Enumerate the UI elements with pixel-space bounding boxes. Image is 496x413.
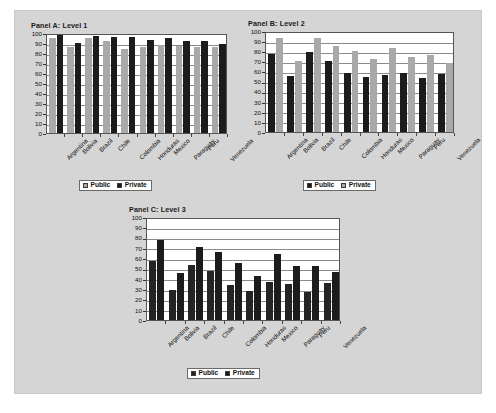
bar bbox=[268, 54, 275, 132]
y-axis-tick-label: 0 bbox=[139, 318, 142, 324]
bar bbox=[400, 73, 407, 132]
bar bbox=[332, 272, 339, 320]
x-axis-tick bbox=[341, 133, 342, 136]
x-axis-category-label: Brazil bbox=[98, 137, 114, 153]
bar bbox=[427, 55, 434, 132]
y-axis-tick bbox=[143, 259, 146, 260]
legend-swatch-icon bbox=[83, 183, 88, 188]
y-axis-tick-label: 50 bbox=[35, 81, 42, 87]
y-axis-tick bbox=[43, 84, 46, 85]
panel-b: Panel B: Level 2 0102030405060708090100A… bbox=[248, 19, 458, 192]
y-axis-tick-label: 60 bbox=[135, 256, 142, 262]
x-axis-tick bbox=[243, 321, 244, 324]
y-axis-tick bbox=[262, 72, 265, 73]
bar bbox=[57, 34, 64, 133]
x-axis-tick bbox=[204, 321, 205, 324]
y-axis-tick bbox=[43, 104, 46, 105]
panel-c: Panel C: Level 3 0102030405060708090100A… bbox=[129, 205, 344, 381]
legend-swatch-icon bbox=[307, 183, 312, 188]
x-axis-tick bbox=[284, 133, 285, 136]
y-axis-tick-label: 0 bbox=[258, 130, 261, 136]
y-axis-tick-label: 100 bbox=[32, 31, 42, 37]
legend-label: Public bbox=[91, 182, 111, 189]
x-axis-tick bbox=[137, 134, 138, 137]
y-axis-tick-label: 80 bbox=[35, 51, 42, 57]
chart-legend: PublicPrivate bbox=[79, 180, 152, 191]
y-axis-tick bbox=[143, 321, 146, 322]
legend-entry: Public bbox=[83, 182, 110, 189]
y-axis-tick-label: 30 bbox=[135, 287, 142, 293]
y-axis-tick-label: 50 bbox=[254, 79, 261, 85]
bar bbox=[194, 47, 201, 133]
x-axis-tick bbox=[185, 321, 186, 324]
bar bbox=[304, 292, 311, 320]
bar bbox=[276, 38, 283, 132]
bar bbox=[287, 76, 294, 132]
bar bbox=[121, 49, 128, 133]
y-axis-tick-label: 0 bbox=[39, 131, 42, 137]
plot-area bbox=[146, 218, 340, 321]
y-axis-tick bbox=[262, 42, 265, 43]
bar bbox=[295, 61, 302, 132]
legend-label: Private bbox=[349, 182, 371, 189]
x-axis-category-label: Chile bbox=[220, 324, 235, 339]
y-axis-tick-label: 80 bbox=[254, 49, 261, 55]
bar bbox=[324, 283, 331, 320]
bar bbox=[438, 74, 445, 132]
y-axis-tick bbox=[43, 114, 46, 115]
legend-swatch-icon bbox=[341, 183, 346, 188]
bar bbox=[382, 75, 389, 132]
y-axis-tick bbox=[43, 34, 46, 35]
bar bbox=[254, 276, 261, 320]
bar bbox=[333, 46, 340, 132]
bar bbox=[363, 77, 370, 132]
x-axis-tick bbox=[378, 133, 379, 136]
legend-swatch-icon bbox=[225, 371, 230, 376]
y-axis-tick-label: 60 bbox=[254, 69, 261, 75]
legend-entry: Public bbox=[307, 182, 334, 189]
x-axis-tick bbox=[155, 134, 156, 137]
x-axis-tick bbox=[282, 321, 283, 324]
chart-legend: PublicPrivate bbox=[303, 180, 376, 191]
legend-entry: Private bbox=[117, 182, 147, 189]
x-axis-category-label: Brazil bbox=[319, 136, 335, 152]
bar bbox=[149, 261, 156, 320]
bar bbox=[147, 40, 154, 133]
bar bbox=[129, 37, 136, 133]
bar bbox=[293, 266, 300, 320]
bar bbox=[306, 52, 313, 132]
x-axis-category-label: Brazil bbox=[201, 324, 217, 340]
legend-entry: Private bbox=[341, 182, 371, 189]
bar bbox=[352, 51, 359, 132]
y-axis-tick bbox=[43, 94, 46, 95]
bar bbox=[312, 266, 319, 320]
y-axis-tick-label: 80 bbox=[135, 235, 142, 241]
bar bbox=[246, 291, 253, 320]
bar bbox=[158, 45, 165, 133]
y-axis-tick bbox=[143, 300, 146, 301]
legend-label: Private bbox=[233, 370, 255, 377]
legend-label: Private bbox=[125, 182, 147, 189]
x-axis-tick bbox=[340, 321, 341, 324]
y-axis-tick-label: 70 bbox=[135, 246, 142, 252]
x-axis-tick bbox=[165, 321, 166, 324]
bar bbox=[188, 265, 195, 320]
y-axis-tick-label: 40 bbox=[254, 89, 261, 95]
y-axis-tick bbox=[143, 280, 146, 281]
bar bbox=[419, 78, 426, 132]
bar bbox=[344, 73, 351, 132]
bar bbox=[325, 61, 332, 132]
panel-b-title: Panel B: Level 2 bbox=[248, 19, 458, 28]
legend-swatch-icon bbox=[191, 371, 196, 376]
x-axis-tick bbox=[100, 134, 101, 137]
y-axis-tick bbox=[143, 290, 146, 291]
x-axis-tick bbox=[191, 134, 192, 137]
y-axis-tick bbox=[43, 74, 46, 75]
y-axis-tick-label: 90 bbox=[254, 39, 261, 45]
x-axis-category-label: Chile bbox=[338, 136, 353, 151]
y-axis-tick-label: 90 bbox=[35, 41, 42, 47]
y-axis-tick bbox=[43, 134, 46, 135]
x-axis-tick bbox=[82, 134, 83, 137]
y-axis-tick-label: 40 bbox=[35, 91, 42, 97]
bar bbox=[111, 37, 118, 133]
